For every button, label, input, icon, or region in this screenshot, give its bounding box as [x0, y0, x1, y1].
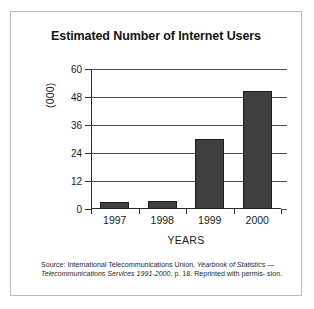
y-tick-label: 0: [76, 204, 82, 215]
y-tick-label: 12: [71, 176, 82, 187]
bar: [195, 139, 224, 209]
figure-frame: Estimated Number of Internet Users (000)…: [10, 11, 302, 296]
source-line-2-italic: Telecommunications Services 1991-2000: [41, 270, 170, 278]
source-line-2-plain: , p. 18. Reprinted with permis-: [170, 270, 265, 278]
source-line-1-plain: Source: International Telecommunications…: [41, 261, 197, 269]
y-tick-mark-right: [281, 153, 287, 154]
x-tick-mark: [139, 209, 140, 214]
y-tick-label: 48: [71, 92, 82, 103]
y-tick-mark-right: [281, 125, 287, 126]
source-line-2-dash: —: [267, 261, 274, 269]
gridline: [91, 69, 281, 70]
y-tick-label: 60: [71, 64, 82, 75]
bar: [243, 91, 272, 209]
y-tick-label: 36: [71, 120, 82, 131]
source-line-3: sion.: [267, 270, 282, 278]
plot-area: 01224364860 1997199819992000: [91, 69, 281, 209]
x-tick-label: 2000: [246, 214, 269, 226]
y-tick-mark: [85, 153, 91, 154]
y-tick-mark: [85, 97, 91, 98]
source-line-1-italic: Yearbook of Statistics: [197, 261, 265, 269]
y-tick-mark: [85, 69, 91, 70]
y-tick-mark-right: [281, 69, 287, 70]
x-tick-mark: [186, 209, 187, 214]
source-note: Source: International Telecommunications…: [41, 261, 296, 279]
x-tick-label: 1999: [198, 214, 221, 226]
y-tick-mark-right: [281, 181, 287, 182]
y-tick-mark-right: [281, 97, 287, 98]
x-tick-mark: [281, 209, 282, 214]
x-tick-label: 1997: [103, 214, 126, 226]
x-tick-label: 1998: [151, 214, 174, 226]
x-axis-title: YEARS: [91, 234, 281, 246]
y-tick-mark: [85, 181, 91, 182]
y-axis-title: (000): [44, 82, 56, 108]
bar: [148, 201, 177, 209]
x-tick-mark: [234, 209, 235, 214]
y-tick-label: 24: [71, 148, 82, 159]
y-tick-mark: [85, 125, 91, 126]
bar: [100, 202, 129, 209]
chart-title: Estimated Number of Internet Users: [11, 29, 301, 43]
source-line-1: Source: International Telecommunications…: [41, 261, 265, 269]
x-tick-mark: [91, 209, 92, 214]
